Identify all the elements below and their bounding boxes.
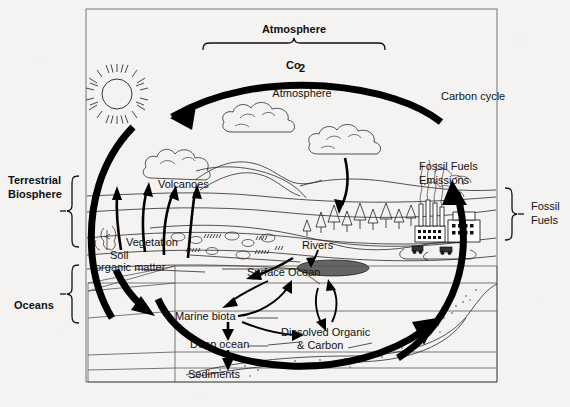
atmosphere-heading: Atmosphere [262, 23, 326, 35]
soil-label-line1: Soil [110, 249, 128, 261]
oceans-label: Oceans [14, 299, 54, 311]
fossil-fuels-right-line2: Fuels [531, 214, 558, 226]
dissolved-organic-line2: & Carbon [297, 339, 343, 351]
atmosphere-inner-label: Atmosphere [272, 87, 331, 99]
terrestrial-biosphere-label-line2: Biosphere [8, 188, 62, 200]
page-background [0, 0, 570, 407]
vegetation-label: Vegetation [126, 236, 178, 248]
fossil-fuels-emissions-line2: Emissions [419, 174, 470, 186]
terrestrial-biosphere-label-line1: Terrestrial [8, 174, 61, 186]
carbon-cycle-label: Carbon cycle [441, 90, 505, 102]
co2-subscript: 2 [299, 62, 305, 74]
soil-label-line2: organic matter [95, 261, 166, 273]
rivers-label: Rivers [302, 239, 334, 251]
fossil-fuels-right-line1: Fossil [531, 200, 560, 212]
deep-ocean-label: Deep ocean [190, 338, 249, 350]
dissolved-organic-line1: Dissolved Organic [281, 326, 371, 338]
surface-ocean-label: Surface Ocean [247, 266, 320, 278]
marine-biota-label: Marine biota [175, 310, 236, 322]
carbon-cycle-diagram: Atmosphere Co 2 Atmosphere Carbon cycle … [0, 0, 570, 407]
volcanoes-label: Volcanoes [158, 178, 209, 190]
fossil-fuels-emissions-line1: Fossil Fuels [419, 160, 478, 172]
carbon-cycle-canvas: Atmosphere Co 2 Atmosphere Carbon cycle … [0, 0, 570, 407]
sediments-label: Sediments [188, 368, 240, 380]
